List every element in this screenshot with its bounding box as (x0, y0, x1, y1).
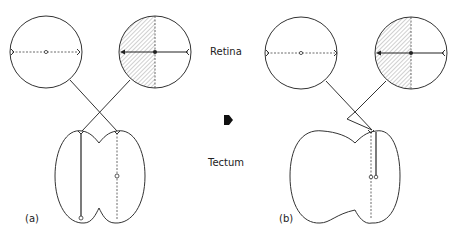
tectum-a (55, 131, 145, 223)
tectum-b (290, 130, 400, 223)
retina-label: Retina (210, 46, 242, 57)
panel-a-label: (a) (25, 213, 39, 224)
panel-a: (a) (10, 16, 191, 224)
tectum-label: Tectum (207, 157, 244, 168)
optic-chiasm-a (70, 80, 130, 131)
panel-b-label: (b) (279, 213, 293, 224)
retina-right-b (375, 17, 447, 89)
arrow-right-icon (224, 115, 233, 125)
retina-right-a (119, 16, 191, 88)
panel-b: (b) (265, 17, 447, 224)
retina-left-b (265, 17, 337, 89)
optic-chiasm-b (326, 81, 386, 130)
retinotectal-diagram: (a) Retina Tectum (0, 0, 456, 236)
retina-left-a (10, 16, 82, 88)
